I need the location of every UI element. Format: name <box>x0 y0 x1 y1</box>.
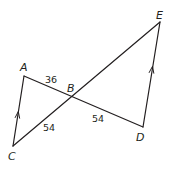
segment-ad <box>24 76 143 127</box>
segment-de <box>143 22 160 127</box>
length-label-cb: 54 <box>43 122 55 133</box>
point-label-a: A <box>19 61 28 74</box>
point-label-c: C <box>8 150 16 163</box>
point-label-d: D <box>136 131 144 144</box>
length-label-ab: 36 <box>45 74 57 85</box>
segment-ce <box>13 22 160 146</box>
segment-ac <box>13 76 24 146</box>
point-label-e: E <box>156 9 163 22</box>
geometry-diagram: A B C D E 36 54 54 <box>0 0 169 171</box>
point-label-b: B <box>67 82 75 95</box>
length-label-bd: 54 <box>92 113 104 124</box>
